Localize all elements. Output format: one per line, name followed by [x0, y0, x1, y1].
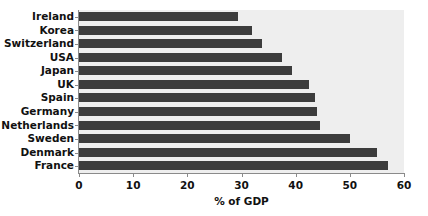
y-axis-category-labels: IrelandKoreaSwitzerlandUSAJapanUKSpainGe…	[0, 10, 74, 173]
y-axis-tick	[75, 125, 79, 126]
bar	[79, 26, 252, 35]
bar	[79, 107, 317, 116]
y-axis-tick	[75, 58, 79, 59]
bar	[79, 93, 315, 102]
bar-row	[79, 37, 404, 51]
y-axis-tick	[75, 112, 79, 113]
bar	[79, 134, 350, 143]
bar-row	[79, 51, 404, 65]
x-axis-tick	[350, 173, 351, 177]
bar-row	[79, 91, 404, 105]
plot-area	[79, 10, 404, 173]
y-axis-label: UK	[0, 78, 74, 92]
x-axis-tick-label: 30	[222, 179, 262, 191]
bar-row	[79, 119, 404, 133]
bar	[79, 121, 320, 130]
y-axis-label: Germany	[0, 105, 74, 119]
x-axis-tick-label: 60	[384, 179, 424, 191]
bar	[79, 148, 377, 157]
y-axis-label: Denmark	[0, 146, 74, 160]
y-axis-label: Netherlands	[0, 119, 74, 133]
x-axis-tick	[296, 173, 297, 177]
bar-row	[79, 10, 404, 24]
bar-row	[79, 146, 404, 160]
y-axis-label: Sweden	[0, 132, 74, 146]
x-axis-tick	[133, 173, 134, 177]
bar-chart: IrelandKoreaSwitzerlandUSAJapanUKSpainGe…	[0, 0, 428, 216]
x-axis-tick-label: 40	[276, 179, 316, 191]
y-axis-label: Spain	[0, 91, 74, 105]
y-axis-tick	[75, 71, 79, 72]
y-axis-tick	[75, 44, 79, 45]
x-axis-tick	[404, 173, 405, 177]
bar	[79, 39, 262, 48]
y-axis-tick	[75, 17, 79, 18]
bar-row	[79, 105, 404, 119]
x-axis-tick	[187, 173, 188, 177]
bar	[79, 12, 238, 21]
y-axis-label: Ireland	[0, 10, 74, 24]
bar	[79, 53, 282, 62]
bar-row	[79, 78, 404, 92]
bar	[79, 161, 388, 170]
bar-row	[79, 159, 404, 173]
x-axis-tick-label: 10	[113, 179, 153, 191]
y-axis-label: Japan	[0, 64, 74, 78]
x-axis-tick-label: 20	[167, 179, 207, 191]
x-axis-title: % of GDP	[79, 195, 404, 207]
y-axis-tick	[75, 30, 79, 31]
bar-row	[79, 64, 404, 78]
bar	[79, 80, 309, 89]
y-axis-label: USA	[0, 51, 74, 65]
y-axis-label: Korea	[0, 24, 74, 38]
y-axis-tick	[75, 85, 79, 86]
x-axis-tick	[79, 173, 80, 177]
y-axis-tick	[75, 153, 79, 154]
x-axis-tick-label: 0	[59, 179, 99, 191]
y-axis-tick	[75, 98, 79, 99]
y-axis-line	[78, 10, 79, 174]
y-axis-label: Switzerland	[0, 37, 74, 51]
bar-row	[79, 24, 404, 38]
y-axis-label: France	[0, 159, 74, 173]
x-axis-tick	[242, 173, 243, 177]
bar	[79, 66, 292, 75]
y-axis-tick	[75, 166, 79, 167]
x-axis-tick-label: 50	[330, 179, 370, 191]
bar-row	[79, 132, 404, 146]
y-axis-tick	[75, 139, 79, 140]
